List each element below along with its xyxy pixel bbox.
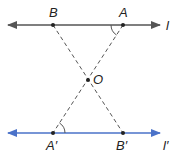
point-o bbox=[86, 78, 90, 82]
point-a-prime bbox=[51, 131, 55, 135]
label-line-l-prime: l′ bbox=[163, 138, 169, 153]
label-b: B bbox=[49, 5, 58, 20]
label-b-prime: B′ bbox=[116, 138, 128, 153]
label-a: A bbox=[118, 5, 128, 20]
point-a bbox=[121, 23, 125, 27]
angle-mark-a bbox=[111, 25, 117, 35]
point-b-prime bbox=[121, 131, 125, 135]
angle-mark-a-prime bbox=[60, 123, 66, 133]
point-b bbox=[51, 23, 55, 27]
label-o: O bbox=[93, 72, 103, 87]
label-a-prime: A′ bbox=[45, 138, 58, 153]
reflection-diagram: B A O A′ B′ l l′ bbox=[0, 0, 170, 159]
label-line-l: l bbox=[166, 18, 170, 33]
